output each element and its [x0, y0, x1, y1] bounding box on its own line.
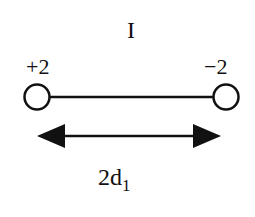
- right-node-circle: [214, 85, 239, 110]
- left-node-circle: [25, 85, 50, 110]
- double-arrow-icon: [37, 124, 221, 148]
- distance-label-subscript: 1: [122, 176, 131, 195]
- distance-label: 2d1: [98, 165, 131, 194]
- distance-label-base: 2d: [98, 164, 122, 190]
